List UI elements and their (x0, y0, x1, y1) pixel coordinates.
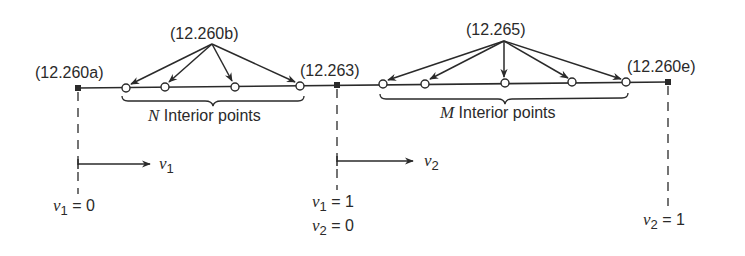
v1-axis-label: v1 (159, 154, 174, 176)
right-brace-label: M Interior points (439, 103, 556, 122)
v1-equals-1-label: v1 = 1 (312, 192, 354, 214)
left-brace (122, 96, 304, 106)
v2-equals-1-label: v2 = 1 (643, 210, 685, 232)
label-12-260a: (12.260a) (35, 64, 104, 81)
label-12-260e: (12.260e) (627, 58, 696, 75)
right-brace (380, 93, 628, 104)
right-interior-arrows (388, 41, 621, 80)
right-boundary-node (665, 79, 671, 85)
left-interior-arrows (131, 44, 295, 84)
v2-equals-0-label: v2 = 0 (312, 216, 354, 238)
left-brace-label: N Interior points (147, 106, 261, 125)
diagram-canvas: (12.260a) (12.260b) (12.263) (12.265) (1… (0, 0, 745, 256)
label-12-260b: (12.260b) (170, 25, 239, 42)
left-boundary-node (75, 85, 81, 91)
v1-equals-0-label: v1 = 0 (53, 196, 95, 218)
label-12-263: (12.263) (300, 62, 360, 79)
junction-node (334, 82, 340, 88)
label-12-265: (12.265) (466, 21, 526, 38)
v2-axis-label: v2 (424, 151, 439, 173)
grid-diagram: (12.260a) (12.260b) (12.263) (12.265) (1… (0, 0, 745, 256)
